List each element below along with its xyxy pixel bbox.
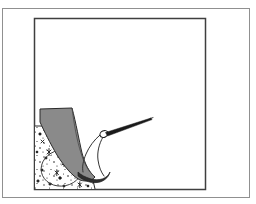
illustration-svg: Line-art illustration of a boot on stipp… <box>0 0 256 204</box>
figure-canvas: Line-art illustration of a boot on stipp… <box>0 0 256 204</box>
